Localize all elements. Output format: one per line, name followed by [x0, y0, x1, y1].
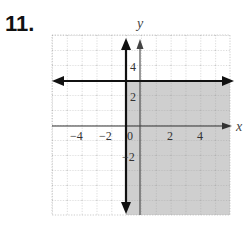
inequality-graph: y x −4 −2 0 2 4 4 2 −2: [0, 0, 252, 227]
x-tick--4: −4: [70, 129, 83, 143]
y-tick--2: −2: [122, 150, 135, 164]
x-tick-4: 4: [197, 129, 203, 143]
x-tick--2: −2: [99, 129, 112, 143]
x-tick-0: 0: [127, 129, 133, 143]
y-tick-2: 2: [130, 90, 136, 104]
x-tick-2: 2: [167, 129, 173, 143]
y-tick-4: 4: [130, 60, 136, 74]
grid: [52, 35, 230, 215]
y-axis-label: y: [135, 16, 144, 31]
x-axis-label: x: [235, 119, 243, 134]
